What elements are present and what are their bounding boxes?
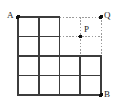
point-b-marker xyxy=(99,93,103,97)
geometry-figure: A Q P B xyxy=(0,0,125,112)
point-p-marker xyxy=(78,35,82,39)
point-a-label: A xyxy=(7,11,14,20)
point-q-marker xyxy=(99,15,103,19)
point-a-marker xyxy=(16,15,20,19)
point-b-label: B xyxy=(104,90,110,99)
point-p-label: P xyxy=(84,25,89,34)
point-q-label: Q xyxy=(104,11,111,20)
